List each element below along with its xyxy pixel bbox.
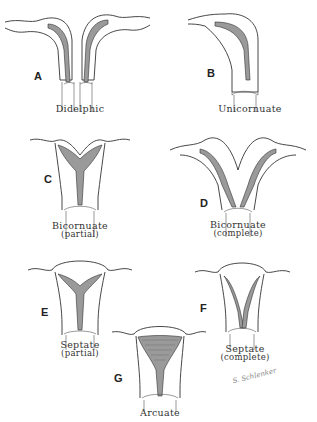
- panel-arcuate: G Arcuate: [100, 320, 220, 422]
- caption-septate-complete: Septate (complete): [210, 344, 280, 362]
- panel-letter-f: F: [200, 302, 207, 314]
- panel-letter-a: A: [34, 70, 42, 82]
- panel-letter-b: B: [207, 67, 215, 79]
- panel-letter-d: D: [200, 197, 208, 209]
- panel-bicornuate-partial: C Bicornuate (partial): [0, 125, 160, 245]
- caption-arcuate-text: Arcuate: [140, 407, 180, 418]
- panel-letter-c: C: [44, 173, 52, 185]
- caption-bicornuate-complete: Bicornuate (complete): [193, 220, 283, 238]
- caption-unicornuate-text: Unicornuate: [218, 103, 281, 114]
- caption-didelphic: Didelphic: [35, 104, 125, 113]
- panel-letter-e: E: [41, 306, 48, 318]
- caption-arcuate: Arcuate: [115, 408, 205, 417]
- panel-bicornuate-complete: D Bicornuate (complete): [160, 115, 317, 240]
- caption-didelphic-text: Didelphic: [56, 103, 105, 114]
- unicornuate-uterus-illustration: [160, 0, 317, 115]
- panel-didelphic: A Didelphic: [0, 0, 160, 115]
- panel-unicornuate: B Unicornuate: [160, 0, 317, 115]
- caption-bicornuate-partial-sub: (partial): [35, 230, 125, 239]
- caption-unicornuate: Unicornuate: [205, 104, 295, 113]
- caption-bicornuate-partial: Bicornuate (partial): [35, 221, 125, 239]
- panel-letter-g: G: [114, 372, 123, 384]
- didelphic-uterus-illustration: [0, 0, 160, 115]
- caption-bicornuate-complete-sub: (complete): [193, 229, 283, 238]
- caption-septate-complete-sub: (complete): [210, 353, 280, 362]
- artist-signature: S. Schlenker: [232, 367, 277, 386]
